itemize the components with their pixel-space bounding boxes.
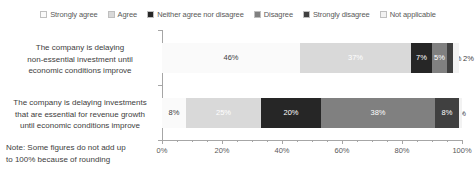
category-axis-tick <box>158 30 162 31</box>
axis-tick-minor <box>177 140 178 142</box>
legend-item-label: Strongly agree <box>50 10 97 19</box>
bar-segment-label: 8% <box>169 109 180 117</box>
bar-segment[interactable]: 8% <box>435 98 459 128</box>
bar-segment-label: 46% <box>223 54 238 62</box>
chart-note-line: Note: Some figures do not add up <box>6 142 156 154</box>
legend-item-2[interactable]: Neither agree nor disagree <box>147 10 244 19</box>
bar-segment[interactable] <box>459 98 462 128</box>
axis-tick-label: 20% <box>214 146 229 155</box>
bar-segment-label: 8% <box>442 109 453 117</box>
axis-tick-major <box>462 140 463 144</box>
axis-tick-minor <box>312 140 313 142</box>
legend-swatch-icon <box>147 11 154 18</box>
bar-segment[interactable] <box>453 43 459 73</box>
axis-tick-minor <box>237 140 238 142</box>
bar-row[interactable]: 8%25%20%38%8% <box>162 98 462 128</box>
axis-tick-label: 60% <box>334 146 349 155</box>
bar-segment[interactable]: 20% <box>261 98 321 128</box>
bar-segment[interactable]: 37% <box>300 43 411 73</box>
legend-item-5[interactable]: Not applicable <box>380 10 436 19</box>
axis-tick-label: 100% <box>452 146 471 155</box>
bar-segment-label: 20% <box>283 109 298 117</box>
category-axis-tick <box>158 140 162 141</box>
legend-item-3[interactable]: Disagree <box>254 10 293 19</box>
category-label-line: economic conditions improve <box>4 65 156 77</box>
bar-segment[interactable]: 8% <box>162 98 186 128</box>
bar-segment-label: 5% <box>434 54 445 62</box>
bar-segment-label: 37% <box>348 54 363 62</box>
category-label-1: The company is delaying investmentsthat … <box>4 97 156 132</box>
axis-tick-minor <box>417 140 418 142</box>
chart-note-line: to 100% because of rounding <box>6 154 156 166</box>
stacked-bar-chart: Strongly agreeAgreeNeither agree nor dis… <box>0 0 476 178</box>
axis-tick-major <box>342 140 343 144</box>
axis-tick-minor <box>447 140 448 142</box>
axis-tick-label: 0% <box>157 146 168 155</box>
axis-tick-major <box>222 140 223 144</box>
legend-swatch-icon <box>303 11 310 18</box>
legend-item-label: Disagree <box>264 10 293 19</box>
legend-item-label: Agree <box>118 10 138 19</box>
axis-tick-minor <box>372 140 373 142</box>
category-label-line: that are essential for revenue growth <box>4 109 156 121</box>
bar-segment[interactable]: 46% <box>162 43 300 73</box>
axis-tick-minor <box>192 140 193 142</box>
legend-item-label: Not applicable <box>390 10 436 19</box>
category-label-line: The company is delaying investments <box>4 97 156 109</box>
legend-item-0[interactable]: Strongly agree <box>40 10 97 19</box>
legend-swatch-icon <box>108 11 115 18</box>
bar-segment-label: 7% <box>416 54 427 62</box>
axis-tick-label: 80% <box>394 146 409 155</box>
bar-segment[interactable]: 7% <box>411 43 432 73</box>
axis-tick-minor <box>432 140 433 142</box>
axis-tick-minor <box>207 140 208 142</box>
bar-segment[interactable]: 5% <box>432 43 447 73</box>
category-axis-tick <box>158 85 162 86</box>
legend-swatch-icon <box>380 11 387 18</box>
axis-tick-minor <box>297 140 298 142</box>
axis-tick-minor <box>267 140 268 142</box>
legend-swatch-icon <box>40 11 47 18</box>
category-label-line: until economic conditions improve <box>4 120 156 132</box>
chart-note: Note: Some figures do not add upto 100% … <box>6 142 156 165</box>
bar-segment[interactable]: 38% <box>321 98 435 128</box>
legend-item-label: Strongly disagree <box>313 10 370 19</box>
plot-area: 0%20%40%60%80%100%2%2%2%46%37%7%5%1%8%25… <box>162 30 462 140</box>
axis-tick-major <box>282 140 283 144</box>
category-label-line: non-essential investment until <box>4 54 156 66</box>
bar-total-remainder-label: 2% <box>463 54 474 63</box>
axis-tick-minor <box>387 140 388 142</box>
legend-item-label: Neither agree nor disagree <box>157 10 244 19</box>
bar-row[interactable]: 46%37%7%5% <box>162 43 462 73</box>
axis-tick-major <box>162 140 163 144</box>
chart-legend: Strongly agreeAgreeNeither agree nor dis… <box>0 6 476 22</box>
axis-tick-minor <box>327 140 328 142</box>
legend-item-1[interactable]: Agree <box>108 10 138 19</box>
axis-tick-minor <box>357 140 358 142</box>
axis-tick-label: 40% <box>274 146 289 155</box>
bar-segment-label: 38% <box>370 109 385 117</box>
category-label-line: The company is delaying <box>4 42 156 54</box>
category-label-0: The company is delayingnon-essential inv… <box>4 42 156 77</box>
legend-swatch-icon <box>254 11 261 18</box>
bar-segment[interactable]: 25% <box>186 98 261 128</box>
bar-segment-label: 25% <box>216 109 231 117</box>
legend-item-4[interactable]: Strongly disagree <box>303 10 370 19</box>
axis-tick-major <box>402 140 403 144</box>
axis-tick-minor <box>252 140 253 142</box>
